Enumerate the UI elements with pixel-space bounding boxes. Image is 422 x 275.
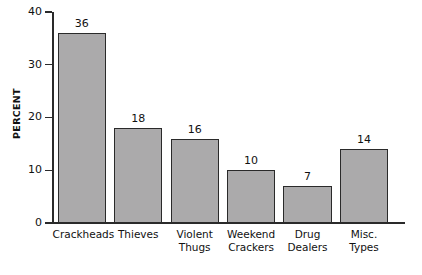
bar-group: 14 xyxy=(340,12,388,223)
x-label-line-1: Misc. xyxy=(351,228,378,240)
x-label-line-1: Weekend xyxy=(227,228,275,240)
x-label-line-2: Thugs xyxy=(165,241,223,254)
plot-area: 36181610714 xyxy=(54,12,405,223)
y-axis-tick: 40 xyxy=(45,11,52,12)
bar xyxy=(114,128,162,223)
x-label-line-1: Violent xyxy=(176,228,212,240)
y-axis-tick: 30 xyxy=(45,64,52,65)
x-axis-category-label: Crackheads xyxy=(53,228,111,241)
bar-group: 18 xyxy=(114,12,162,223)
x-label-line-2: Crackers xyxy=(222,241,280,254)
x-axis-category-label: WeekendCrackers xyxy=(222,228,280,253)
bar-value-label: 10 xyxy=(227,155,275,166)
y-axis-tick: 20 xyxy=(45,117,52,118)
y-axis-tick: 0 xyxy=(45,222,52,223)
x-label-line-2: Types xyxy=(335,241,393,254)
bar xyxy=(171,139,219,223)
x-axis-category-label: Misc.Types xyxy=(335,228,393,253)
bar xyxy=(227,170,275,223)
y-axis-tick-label: 30 xyxy=(28,58,42,71)
x-label-line-1: Crackheads xyxy=(53,228,115,240)
y-axis-tick-label: 40 xyxy=(28,5,42,18)
bar-value-label: 18 xyxy=(114,113,162,124)
bar-value-label: 14 xyxy=(340,134,388,145)
bar-value-label: 16 xyxy=(171,124,219,135)
bar-group: 36 xyxy=(58,12,106,223)
bar-chart: PERCENT 010203040 36181610714 Crackheads… xyxy=(0,0,422,275)
x-axis-category-label: Thieves xyxy=(109,228,167,241)
y-axis-tick-label: 0 xyxy=(35,216,42,229)
bar xyxy=(283,186,331,223)
y-axis-tick-label: 10 xyxy=(28,163,42,176)
x-label-line-2: Dealers xyxy=(278,241,336,254)
x-axis-category-label: ViolentThugs xyxy=(165,228,223,253)
bar-group: 16 xyxy=(171,12,219,223)
y-axis-tick-label: 20 xyxy=(28,111,42,124)
bar xyxy=(58,33,106,223)
x-label-line-1: Drug xyxy=(295,228,321,240)
y-axis-title: PERCENT xyxy=(11,69,22,159)
bar-value-label: 36 xyxy=(58,18,106,29)
bar-group: 7 xyxy=(283,12,331,223)
x-label-line-1: Thieves xyxy=(118,228,159,240)
y-axis-tick: 10 xyxy=(45,170,52,171)
x-axis-category-label: DrugDealers xyxy=(278,228,336,253)
bar-group: 10 xyxy=(227,12,275,223)
bar-value-label: 7 xyxy=(283,171,331,182)
bar xyxy=(340,149,388,223)
